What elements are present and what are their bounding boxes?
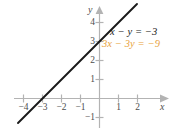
coordinate-plane [0, 0, 178, 138]
graph-figure: x − y = −3 3x − 3y = −9 −4 −3 −2 −1 1 2 … [0, 0, 178, 138]
y-axis-arrowhead [96, 6, 104, 14]
x-axis-arrowhead [160, 95, 169, 103]
plotted-line [18, 4, 137, 123]
